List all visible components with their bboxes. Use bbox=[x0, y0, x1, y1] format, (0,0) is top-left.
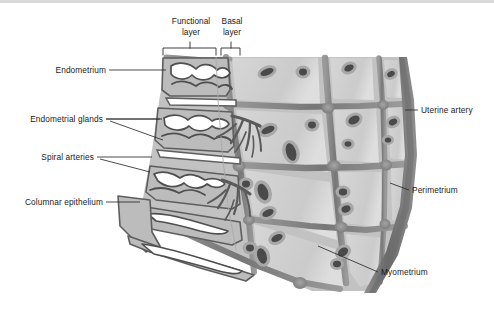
label-uterine-artery: Uterine artery bbox=[421, 105, 473, 115]
label-endometrial-glands: Endometrial glands bbox=[0, 114, 103, 124]
layer-brackets bbox=[163, 42, 240, 55]
anatomy-figure: Functional layer Basal layer Endometrium… bbox=[0, 0, 494, 314]
functional-layer-line2: layer bbox=[182, 27, 200, 37]
endometrial-gland-unit-2 bbox=[155, 108, 234, 152]
basal-layer-line1: Basal bbox=[222, 16, 243, 26]
endometrial-gland-unit-1 bbox=[162, 58, 232, 96]
basal-layer-line2: layer bbox=[223, 27, 241, 37]
label-myometrium: Myometrium bbox=[381, 267, 428, 277]
label-spiral-arteries: Spiral arteries bbox=[0, 152, 94, 162]
label-endometrium: Endometrium bbox=[0, 65, 106, 75]
label-columnar-epithelium: Columnar epithelium bbox=[0, 197, 103, 207]
functional-layer-line1: Functional bbox=[172, 16, 210, 26]
bracket-label-basal-layer: Basal layer bbox=[208, 16, 256, 37]
label-perimetrium: Perimetrium bbox=[412, 185, 458, 195]
